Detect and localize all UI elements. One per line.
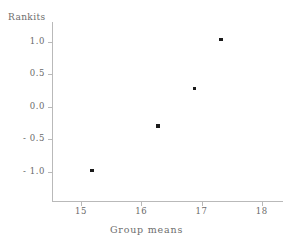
y-tick-label: 0.5 [3, 68, 45, 78]
y-tick-mark [48, 139, 53, 140]
scatter-plot-figure: Rankits 1.00.50.0- 0.5- 1.0 15161718 Gro… [0, 0, 293, 248]
data-point [193, 87, 196, 90]
y-tick-label: - 0.5 [3, 133, 45, 143]
data-point [90, 169, 93, 172]
y-tick-mark [48, 172, 53, 173]
x-axis-line [52, 201, 283, 202]
x-axis-title: Group means [0, 224, 293, 235]
data-point [219, 38, 222, 41]
x-tick-label: 16 [121, 206, 161, 216]
y-tick-mark [48, 74, 53, 75]
y-axis-title: Rankits [8, 12, 46, 22]
y-tick-mark [48, 107, 53, 108]
data-point [156, 124, 159, 127]
y-tick-label: 1.0 [3, 36, 45, 46]
x-tick-label: 15 [61, 206, 101, 216]
x-tick-label: 17 [182, 206, 222, 216]
x-tick-label: 18 [242, 206, 282, 216]
y-tick-label: 0.0 [3, 101, 45, 111]
y-tick-label: - 1.0 [3, 166, 45, 176]
y-axis-line [52, 22, 53, 202]
y-tick-mark [48, 42, 53, 43]
